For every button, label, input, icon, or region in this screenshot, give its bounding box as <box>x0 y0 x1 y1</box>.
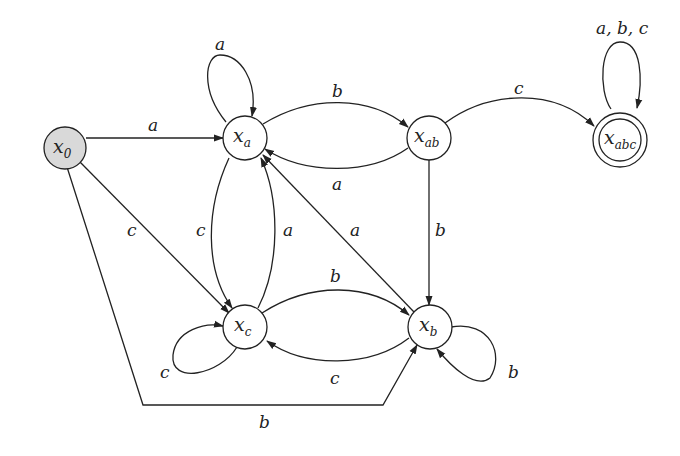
edge-label-xa-xab: b <box>332 81 343 101</box>
state-x0: x0 <box>44 127 86 169</box>
edge-label-xc-xb: b <box>330 266 341 286</box>
edge-label-x0-xc: c <box>127 220 137 240</box>
edge-label-xab-xa: a <box>332 174 342 194</box>
edge-label-x0-xa: a <box>148 115 158 135</box>
edge-xa-xc <box>211 158 232 308</box>
edge-xabc-xabc <box>603 42 640 109</box>
edge-xab-xabc <box>445 98 594 126</box>
edge-label-xabc-xabc: a, b, c <box>596 18 649 38</box>
edge-xa-xa <box>208 55 254 122</box>
edge-label-xc-xc: c <box>160 362 170 382</box>
edge-label-xb-xb: b <box>508 362 519 382</box>
edge-label-xb-xc: c <box>330 368 340 388</box>
state-xc: xc <box>223 305 267 349</box>
state-xa: xa <box>223 116 267 160</box>
edge-xa-xab <box>263 103 408 127</box>
state-xab: xab <box>407 116 451 160</box>
state-xb: xb <box>408 305 452 349</box>
edge-xab-xa <box>265 148 408 168</box>
state-diagram: a c b a b a c a a c b a, b, c <box>0 0 680 456</box>
edge-label-xab-xabc: c <box>514 78 524 98</box>
edge-label-xab-xb: b <box>435 220 446 240</box>
edge-xc-xa <box>258 158 275 308</box>
edge-xc-xb <box>262 290 409 315</box>
edge-label-x0-xb: b <box>259 412 270 432</box>
edge-x0-xc <box>80 162 229 313</box>
edge-label-xa-xa: a <box>215 34 225 54</box>
edge-label-xa-xc: c <box>196 220 206 240</box>
edge-xb-xc <box>267 338 409 361</box>
edge-label-xb-xa: a <box>350 220 360 240</box>
edge-label-xc-xa: a <box>283 220 293 240</box>
transitions: a c b a b a c a a c b a, b, c <box>67 18 649 432</box>
state-xabc: xabc <box>593 113 647 167</box>
